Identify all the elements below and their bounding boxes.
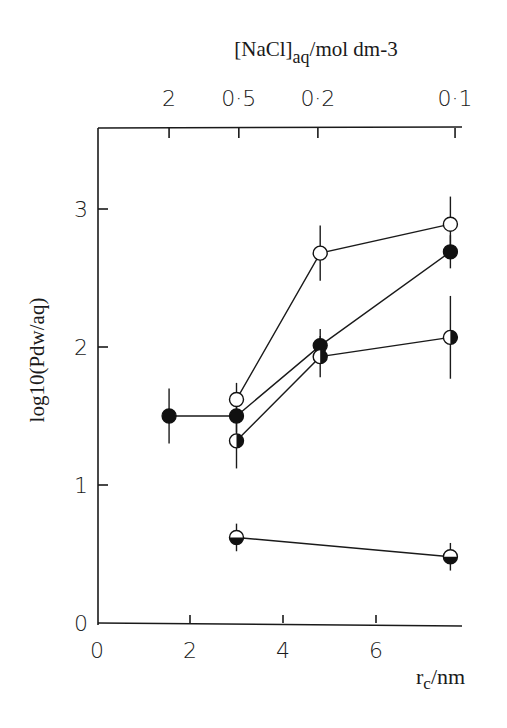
y-tick-label: 1 (74, 473, 88, 498)
data-point (313, 350, 327, 364)
data-point (443, 217, 457, 231)
y-tick-label: 2 (74, 335, 88, 360)
top-tick-label: 0·5 (221, 86, 256, 111)
marker-half-fill (443, 557, 457, 564)
series-line-2 (169, 252, 450, 416)
series-line-1 (237, 224, 451, 399)
x-axis-line (98, 623, 462, 626)
marker-filled (230, 409, 244, 423)
marker-half-fill (450, 330, 457, 344)
data-point (230, 409, 244, 423)
marker-filled (162, 409, 176, 423)
marker-half-fill (230, 537, 244, 544)
data-point (443, 330, 457, 344)
chart: [NaCl]aq/mol dm-3 log10(Pdw/aq) rc/nm 02… (0, 0, 507, 728)
data-point (230, 434, 244, 448)
data-point (313, 246, 327, 260)
x-tick-label: 2 (183, 638, 197, 663)
marker-half-fill (320, 350, 327, 364)
ticks: 0246012320·50·20·1 (74, 86, 473, 663)
data-point (162, 409, 176, 423)
y-axis-title: log10(Pdw/aq) (25, 298, 49, 423)
x-tick-label: 0 (90, 638, 104, 663)
x-tick-label: 6 (369, 638, 383, 663)
top-tick-label: 0·1 (438, 86, 473, 111)
x-axis-title: rc/nm (416, 664, 465, 693)
marker-open (230, 392, 244, 406)
data-point (230, 530, 244, 544)
series-group (162, 197, 457, 571)
marker-filled (443, 245, 457, 259)
data-point (443, 245, 457, 259)
y-tick-label: 0 (74, 611, 88, 636)
x-tick-label: 4 (276, 638, 290, 663)
marker-open (313, 246, 327, 260)
data-point (443, 550, 457, 564)
axes (98, 127, 462, 626)
top-tick-label: 2 (162, 86, 176, 111)
data-point (230, 392, 244, 406)
marker-open (443, 217, 457, 231)
y-tick-label: 3 (74, 197, 88, 222)
top-tick-label: 0·2 (300, 86, 335, 111)
series-line-4 (237, 537, 451, 556)
top-axis-line (98, 127, 462, 128)
marker-half-fill (237, 434, 244, 448)
top-axis-title: [NaCl]aq/mol dm-3 (234, 37, 397, 67)
